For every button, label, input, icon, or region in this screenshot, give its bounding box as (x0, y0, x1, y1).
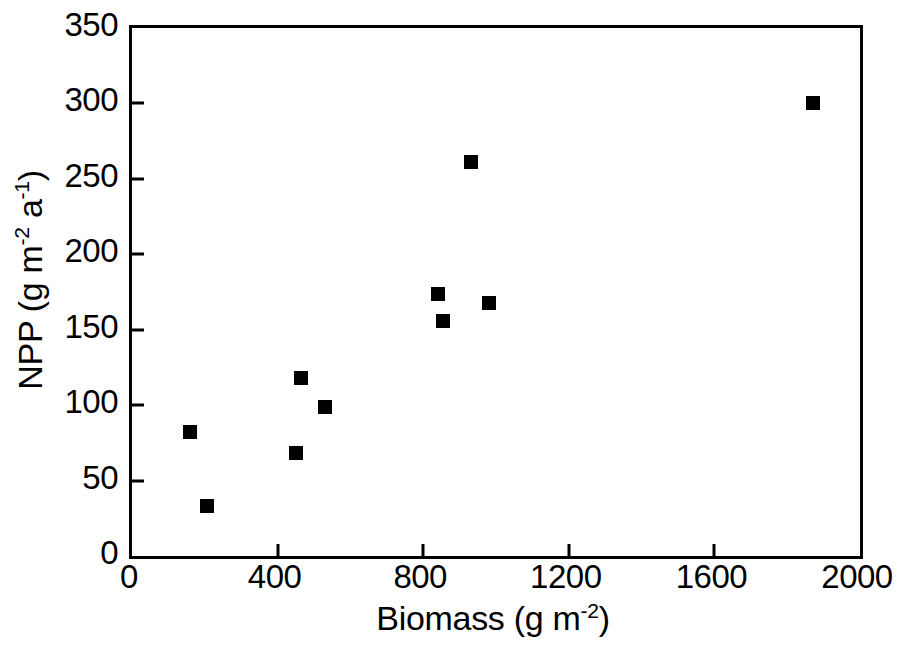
y-axis-tick-labels: 050100150200250300350 (0, 25, 118, 553)
x-axis-title-text: Biomass (g m (376, 599, 580, 637)
x-axis-tick (713, 544, 716, 557)
x-axis-title-tail: ) (599, 599, 610, 637)
y-axis-tick (131, 253, 144, 256)
x-axis-tick (422, 544, 425, 557)
x-axis-tick-label: 800 (340, 560, 500, 593)
data-point-marker (431, 287, 445, 301)
x-axis-tick (567, 544, 570, 557)
data-point-marker (200, 499, 214, 513)
data-point-marker (482, 296, 496, 310)
y-axis-tick (131, 328, 144, 331)
y-axis-tick-label: 250 (0, 159, 118, 192)
data-point-marker (294, 371, 308, 385)
data-point-marker (464, 155, 478, 169)
y-axis-tick-label: 200 (0, 234, 118, 267)
data-point-marker (183, 425, 197, 439)
data-point-marker (806, 96, 820, 110)
x-axis-title: Biomass (g m-2) (129, 600, 857, 636)
x-axis-tick-label: 2000 (777, 560, 909, 593)
y-axis-tick-label: 300 (0, 83, 118, 116)
y-axis-tick-label: 100 (0, 385, 118, 418)
x-axis-tick-label: 1200 (486, 560, 646, 593)
y-axis-tick (131, 102, 144, 105)
x-axis-tick-label: 0 (49, 560, 209, 593)
x-axis-tick-label: 1600 (631, 560, 791, 593)
y-axis-tick-label: 350 (0, 8, 118, 41)
x-axis-title-sup: -2 (581, 599, 599, 622)
x-axis-tick-label: 400 (195, 560, 355, 593)
y-axis-tick (131, 404, 144, 407)
data-point-marker (289, 446, 303, 460)
plot-area (129, 25, 863, 559)
data-point-marker (318, 400, 332, 414)
scatter-plot-figure: NPP (g m-2 a-1) 050100150200250300350 04… (0, 0, 909, 653)
y-axis-tick (131, 479, 144, 482)
y-axis-tick (131, 177, 144, 180)
data-point-marker (436, 314, 450, 328)
y-axis-tick-label: 150 (0, 310, 118, 343)
x-axis-tick-labels: 0400800120016002000 (129, 560, 857, 600)
y-axis-tick-label: 50 (0, 461, 118, 494)
x-axis-tick (276, 544, 279, 557)
